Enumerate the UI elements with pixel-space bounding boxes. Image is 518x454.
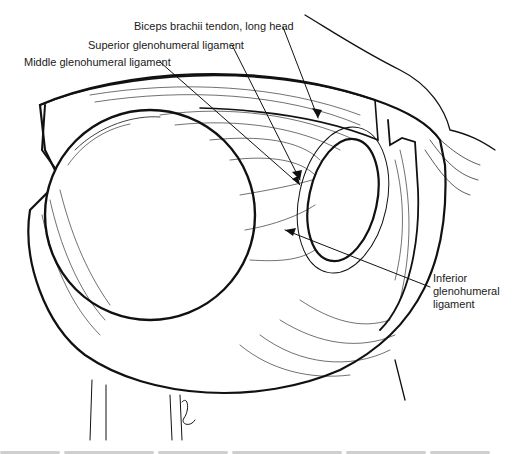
label-inferior-line-3: ligament (433, 298, 518, 311)
humerus-shaft (90, 380, 182, 440)
label-middle-glenohumeral-ligament: Middle glenohumeral ligament (24, 56, 171, 69)
artist-signature-mark (182, 400, 195, 424)
label-biceps-brachii-tendon: Biceps brachii tendon, long head (134, 20, 294, 33)
faded-caption (0, 440, 518, 454)
label-inferior-glenohumeral-ligament: Inferior glenohumeral ligament (433, 272, 518, 311)
leader-biceps (283, 27, 318, 118)
capsule-notch-right (380, 120, 418, 330)
label-inferior-line-2: glenohumeral (433, 285, 518, 298)
humeral-head (45, 110, 255, 320)
label-superior-glenohumeral-ligament: Superior glenohumeral ligament (88, 39, 244, 52)
acromion-outline (305, 15, 495, 150)
label-inferior-line-1: Inferior (433, 272, 518, 285)
